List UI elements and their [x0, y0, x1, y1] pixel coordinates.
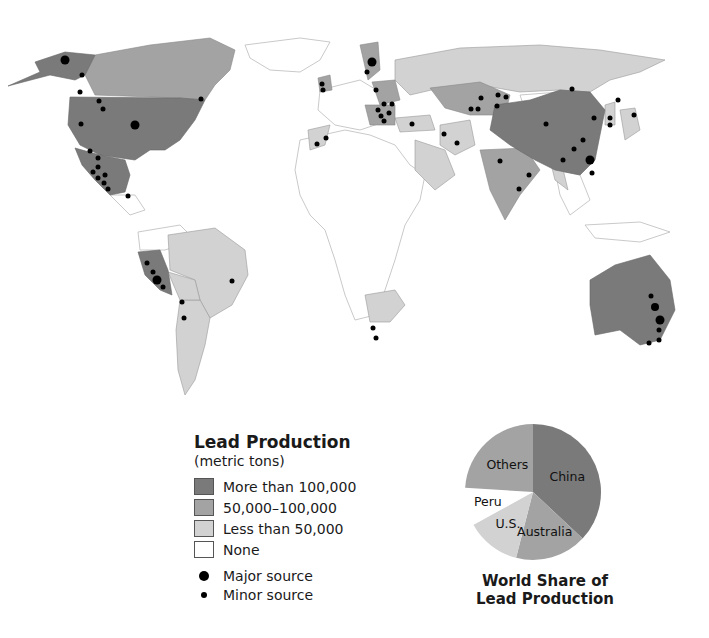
minor-source-marker [315, 142, 320, 147]
legend-label: Major source [223, 568, 313, 584]
pie-label: Peru [474, 494, 502, 509]
minor-source-marker [616, 98, 621, 103]
legend-subtitle: (metric tons) [194, 452, 414, 470]
region-korea [605, 102, 615, 125]
minor-source-marker [379, 114, 384, 119]
minor-source-marker [101, 107, 106, 112]
minor-source-marker [479, 96, 484, 101]
minor-source-marker [517, 187, 522, 192]
minor-source-marker [382, 102, 387, 107]
major-source-icon [199, 571, 209, 581]
map-legend: Lead Production (metric tons) More than … [194, 432, 414, 604]
minor-source-marker [96, 165, 101, 170]
minor-source-marker [455, 141, 460, 146]
legend-label: None [223, 542, 260, 558]
minor-source-marker [581, 138, 586, 143]
minor-source-marker [572, 147, 577, 152]
minor-source-marker [324, 136, 329, 141]
major-source-marker [368, 58, 377, 67]
minor-source-marker [88, 149, 93, 154]
legend-item-50000-100000: 50,000–100,000 [194, 497, 414, 518]
minor-source-icon [201, 592, 207, 598]
legend-label: 50,000–100,000 [223, 500, 337, 516]
minor-source-marker [126, 194, 131, 199]
region-alaska [8, 52, 95, 86]
minor-source-marker [376, 108, 381, 113]
minor-source-marker [387, 111, 392, 116]
region-iran [440, 120, 475, 155]
minor-source-marker [608, 116, 613, 121]
minor-source-marker [592, 116, 597, 121]
minor-source-marker [161, 285, 166, 290]
region-india [480, 148, 540, 220]
legend-swatch [194, 541, 214, 558]
minor-source-marker [647, 341, 652, 346]
minor-source-marker [96, 176, 101, 181]
minor-source-marker [321, 88, 326, 93]
pie-label: Others [486, 457, 528, 472]
legend-title: Lead Production [194, 432, 414, 452]
minor-source-marker [91, 170, 96, 175]
pie-label: China [549, 469, 585, 484]
minor-source-marker [180, 300, 185, 305]
legend-item-less-than-50000: Less than 50,000 [194, 518, 414, 539]
minor-source-marker [590, 171, 595, 176]
legend-item-major-source: Major source [194, 566, 414, 585]
pie-title-line1: World Share of [470, 572, 620, 590]
major-source-marker [61, 56, 70, 65]
region-south-africa [365, 290, 405, 322]
minor-source-marker [410, 122, 415, 127]
region-africa [295, 130, 425, 320]
minor-source-marker [106, 187, 111, 192]
minor-source-marker [320, 82, 325, 87]
region-canada [85, 38, 235, 100]
pie-title-line2: Lead Production [470, 590, 620, 608]
minor-source-marker [442, 132, 447, 137]
major-source-marker [586, 156, 595, 165]
pie-label: Australia [517, 524, 572, 539]
minor-source-marker [199, 97, 204, 102]
minor-source-marker [496, 93, 501, 98]
minor-source-marker [498, 159, 503, 164]
pie-slices [465, 424, 601, 560]
legend-swatch [194, 478, 214, 495]
region-turkey [395, 115, 435, 132]
region-japan [620, 108, 640, 140]
minor-source-marker [365, 70, 370, 75]
minor-source-marker [97, 99, 102, 104]
region-australia [590, 255, 675, 345]
minor-source-marker [657, 328, 662, 333]
minor-source-marker [476, 107, 481, 112]
minor-source-marker [390, 102, 395, 107]
minor-source-marker [96, 156, 101, 161]
minor-source-marker [78, 90, 83, 95]
minor-source-marker [79, 122, 84, 127]
minor-source-marker [80, 73, 85, 78]
major-source-marker [131, 121, 140, 130]
major-source-marker [651, 303, 659, 311]
minor-source-marker [230, 279, 235, 284]
minor-source-marker [103, 173, 108, 178]
major-source-marker [656, 316, 665, 325]
pie-chart: ChinaAustraliaU.S.PeruOthers [460, 420, 610, 570]
pie-label: U.S. [495, 516, 520, 531]
minor-source-marker [374, 88, 379, 93]
minor-source-marker [371, 326, 376, 331]
legend-swatch [194, 520, 214, 537]
minor-source-marker [182, 316, 187, 321]
minor-source-marker [145, 261, 150, 266]
minor-source-marker [374, 336, 379, 341]
minor-source-marker [657, 338, 662, 343]
minor-source-marker [469, 107, 474, 112]
region-indonesia [585, 222, 670, 242]
minor-source-marker [649, 294, 654, 299]
pie-title: World Share of Lead Production [470, 572, 620, 608]
legend-swatch [194, 499, 214, 516]
legend-item-minor-source: Minor source [194, 585, 414, 604]
minor-source-marker [544, 122, 549, 127]
legend-label: Minor source [223, 587, 313, 603]
minor-source-marker [527, 173, 532, 178]
legend-label: Less than 50,000 [223, 521, 343, 537]
major-source-marker [153, 276, 162, 285]
minor-source-marker [632, 113, 637, 118]
